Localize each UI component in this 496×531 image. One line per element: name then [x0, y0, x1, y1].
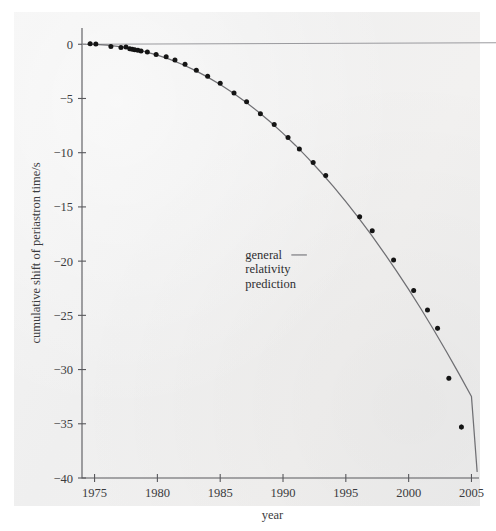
data-point — [183, 62, 188, 67]
data-point — [205, 74, 210, 79]
data-point — [370, 228, 375, 233]
data-point — [218, 81, 223, 86]
figure-page: 0−5−10−15−20−25−30−35−401975198019851990… — [0, 0, 496, 531]
data-point — [323, 173, 328, 178]
annotation-group: generalrelativityprediction — [245, 248, 307, 291]
y-tick-label: −20 — [53, 255, 73, 269]
data-point — [118, 45, 123, 50]
data-point — [172, 57, 177, 62]
y-tick-label: −25 — [53, 309, 73, 323]
data-point — [446, 376, 451, 381]
axis-labels-group: yearcumulative shift of periastron time/… — [29, 162, 284, 522]
data-point — [425, 307, 430, 312]
data-points-group — [88, 41, 464, 429]
data-point — [154, 52, 159, 57]
x-tick-label: 2000 — [396, 486, 421, 500]
x-tick-label: 1980 — [145, 486, 170, 500]
data-point — [139, 48, 144, 53]
zero-line — [82, 43, 496, 45]
x-tick-label: 1985 — [208, 486, 233, 500]
data-point — [297, 146, 302, 151]
chart-canvas: 0−5−10−15−20−25−30−35−401975198019851990… — [0, 0, 496, 531]
data-point — [258, 111, 263, 116]
data-point — [88, 41, 93, 46]
y-tick-label: −35 — [53, 417, 73, 431]
y-tick-label: −10 — [53, 146, 73, 160]
data-point — [411, 288, 416, 293]
data-point — [311, 160, 316, 165]
annotation-line: relativity — [245, 262, 291, 276]
x-tick-label: 2005 — [459, 486, 484, 500]
y-tick-label: −5 — [60, 92, 73, 106]
zero-reference-line — [82, 43, 496, 45]
data-point — [244, 99, 249, 104]
data-point — [108, 44, 113, 49]
y-tick-label: −40 — [53, 472, 73, 486]
x-tick-label: 1990 — [271, 486, 296, 500]
data-point — [357, 214, 362, 219]
y-axis-title: cumulative shift of periastron time/s — [29, 162, 43, 343]
x-axis-title: year — [262, 508, 284, 522]
data-point — [164, 54, 169, 59]
y-tick-label: −15 — [53, 200, 73, 214]
x-tick-label: 1995 — [333, 486, 358, 500]
annotation-line: general — [245, 248, 282, 262]
data-point — [145, 50, 150, 55]
data-point — [286, 135, 291, 140]
data-point — [459, 425, 464, 430]
x-tick-label: 1975 — [82, 486, 107, 500]
data-point — [272, 122, 277, 127]
y-tick-label: −30 — [53, 363, 73, 377]
data-point — [391, 258, 396, 263]
annotation-line: prediction — [245, 277, 296, 291]
data-point — [194, 68, 199, 73]
data-point — [93, 42, 98, 47]
data-point — [232, 91, 237, 96]
data-point — [435, 326, 440, 331]
y-tick-label: 0 — [67, 38, 73, 52]
